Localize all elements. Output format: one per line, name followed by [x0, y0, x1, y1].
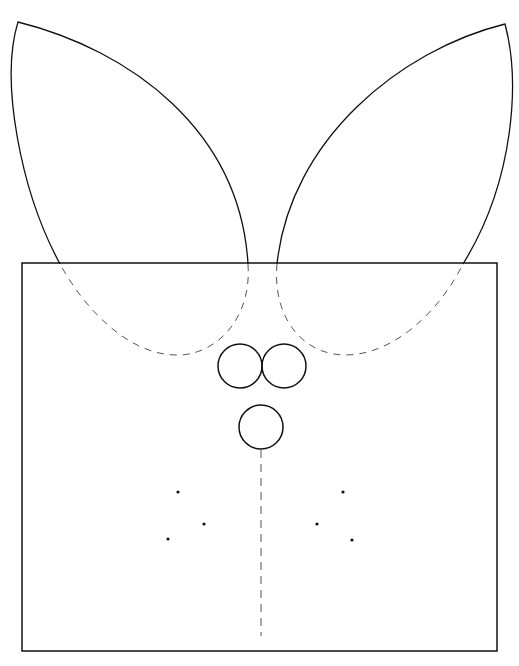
whisker-dot — [202, 522, 205, 525]
right-ear-hidden-outline — [276, 264, 463, 355]
left-ear-hidden-outline — [60, 264, 248, 355]
whisker-dots — [166, 490, 353, 541]
whisker-dot — [315, 522, 318, 525]
nose-circle — [239, 405, 283, 449]
whisker-dot — [341, 490, 344, 493]
whisker-dot — [166, 537, 169, 540]
left-eye-circle — [218, 344, 262, 388]
whisker-dot — [176, 490, 179, 493]
body-rectangle — [22, 263, 497, 651]
left-ear — [11, 22, 248, 264]
whisker-dot — [350, 538, 353, 541]
right-ear — [277, 24, 512, 264]
right-eye-circle — [262, 344, 306, 388]
bunny-diagram — [0, 0, 519, 666]
